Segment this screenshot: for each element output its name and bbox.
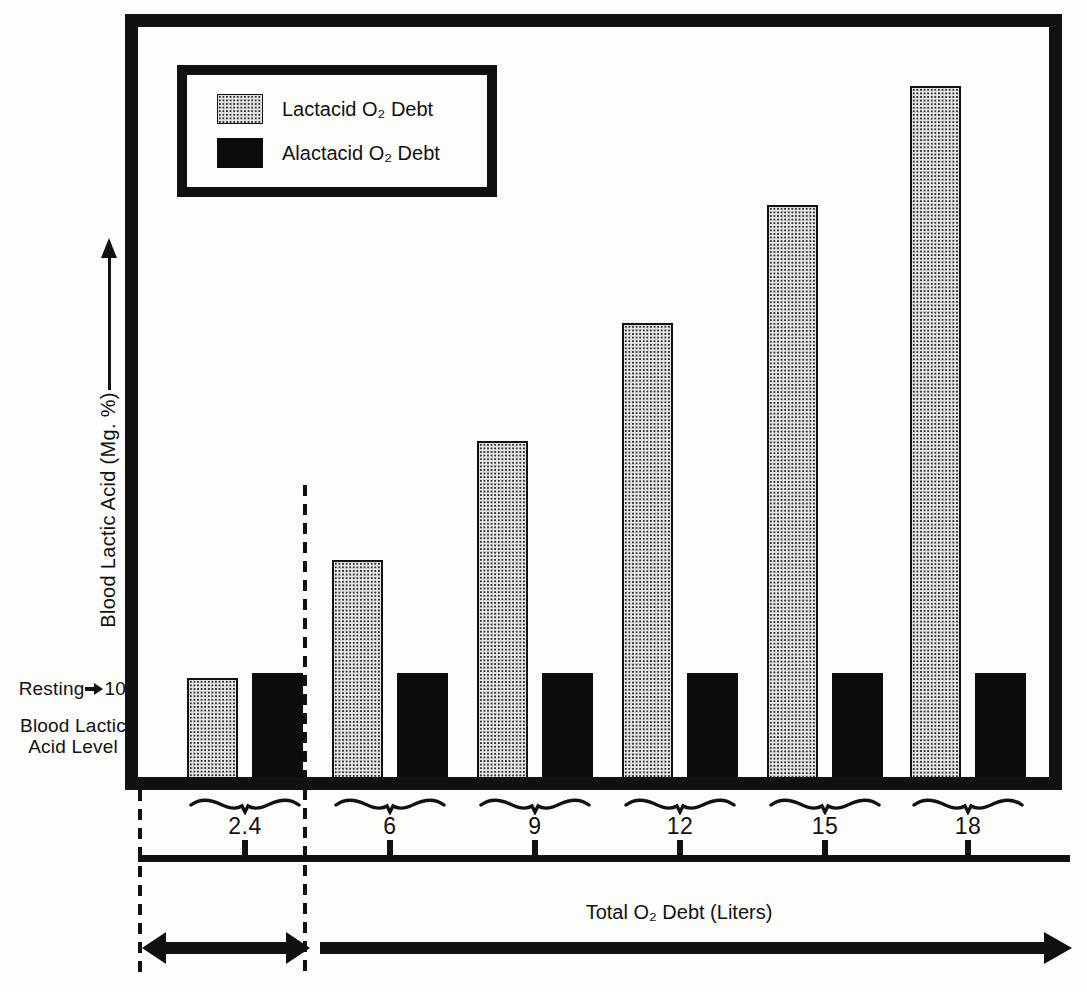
x-tick-mark (677, 840, 683, 856)
x-tick-label-6: 6 (345, 813, 435, 840)
bar-alactacid-15 (832, 673, 883, 777)
x-axis-label: Total O₂ Debt (Liters) (529, 901, 829, 924)
figure-page: Lactacid O₂ Debt Alactacid O₂ Debt Blood… (0, 0, 1087, 992)
up-arrow-shaft (108, 256, 111, 390)
legend-item-alactacid: Alactacid O₂ Debt (217, 138, 487, 168)
resting-range-arrow-icon (142, 932, 310, 964)
bar-alactacid-12 (687, 673, 738, 777)
x-group-brace-icon (622, 795, 738, 815)
x-group-brace-icon (767, 795, 883, 815)
bar-alactacid-6 (397, 673, 448, 777)
bar-lactacid-18 (910, 86, 961, 777)
dashed-line-resting-boundary (303, 485, 307, 972)
resting-sublabel-line2: Acid Level (6, 736, 140, 757)
x-group-brace-icon (187, 795, 303, 815)
legend-item-lactacid: Lactacid O₂ Debt (217, 94, 487, 124)
x-axis-line (138, 855, 1070, 862)
resting-value: 10 (104, 678, 126, 700)
resting-annotation: Resting 10 (18, 677, 126, 701)
legend-box: Lactacid O₂ Debt Alactacid O₂ Debt (177, 65, 497, 197)
bar-lactacid-12 (622, 323, 673, 777)
resting-sublabel-line1: Blood Lactic (6, 715, 140, 736)
bar-alactacid-9 (542, 673, 593, 777)
bar-alactacid-18 (975, 673, 1026, 777)
right-arrow-icon (85, 683, 103, 695)
x-group-brace-icon (910, 795, 1026, 815)
bar-lactacid-6 (332, 560, 383, 777)
x-tick-label-2.4: 2.4 (200, 813, 290, 840)
bar-lactacid-15 (767, 205, 818, 777)
x-tick-label-9: 9 (490, 813, 580, 840)
bar-lactacid-2.4 (187, 678, 238, 777)
x-group-brace-icon (332, 795, 448, 815)
resting-sublabel: Blood Lactic Acid Level (6, 715, 140, 757)
up-arrow-icon (101, 238, 117, 258)
x-tick-label-18: 18 (923, 813, 1013, 840)
resting-label: Resting (19, 678, 85, 700)
bar-alactacid-2.4 (252, 673, 303, 777)
x-tick-label-12: 12 (635, 813, 725, 840)
legend-label-alactacid: Alactacid O₂ Debt (282, 142, 440, 165)
bar-lactacid-9 (477, 441, 528, 777)
x-tick-mark (822, 840, 828, 856)
lactacid-swatch-icon (217, 94, 263, 124)
alactacid-swatch-icon (217, 138, 263, 168)
exercise-range-arrow-icon (320, 932, 1072, 964)
legend-label-lactacid: Lactacid O₂ Debt (282, 98, 433, 121)
x-group-brace-icon (477, 795, 593, 815)
y-axis-label: Blood Lactic Acid (Mg. %) (97, 382, 123, 638)
x-tick-label-15: 15 (780, 813, 870, 840)
x-tick-mark (387, 840, 393, 856)
x-tick-mark (242, 840, 248, 856)
x-tick-mark (965, 840, 971, 856)
x-tick-mark (532, 840, 538, 856)
